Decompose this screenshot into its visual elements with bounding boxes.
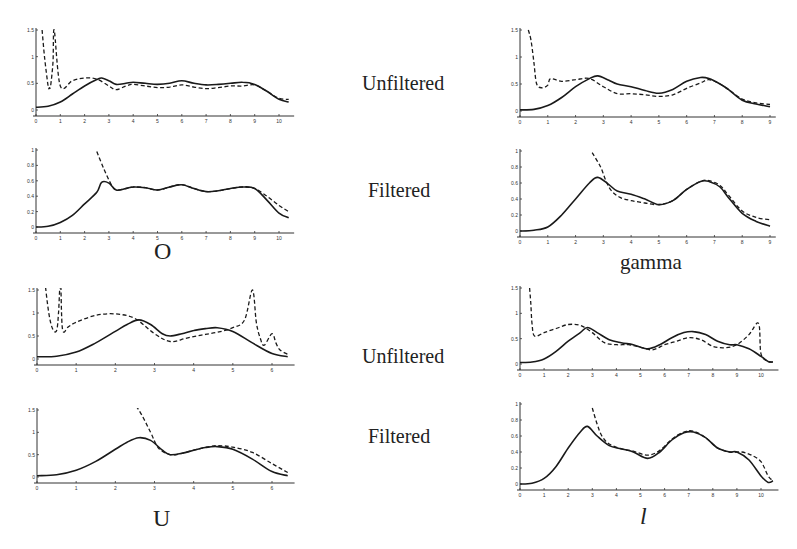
x-tick-label: 5 — [657, 239, 660, 245]
x-tick-label: 6 — [685, 239, 688, 245]
y-tick-label: 0 — [31, 224, 34, 230]
x-tick-label: 8 — [229, 118, 232, 124]
x-tick-label: 10 — [758, 372, 764, 378]
x-tick-label: 6 — [685, 119, 688, 125]
x-tick-label: 4 — [615, 372, 618, 378]
x-tick-label: 10 — [276, 235, 282, 241]
y-tick-label: 0.8 — [511, 417, 518, 423]
y-tick-label: 0.4 — [511, 449, 518, 455]
series-dashed-line — [592, 153, 770, 220]
x-tick-label: 6 — [663, 372, 666, 378]
x-tick-label: 9 — [769, 119, 772, 125]
y-tick-label: 0.6 — [511, 433, 518, 439]
series-solid-line — [36, 78, 289, 107]
chart-l-unfiltered: 01234567891000.511.5 — [511, 285, 778, 378]
x-tick-label: 0 — [35, 235, 38, 241]
x-tick-label: 9 — [736, 372, 739, 378]
chart-O-filtered: 01234567891000.20.40.60.81 — [27, 147, 294, 241]
series-solid-line — [520, 177, 770, 231]
x-tick-label: 4 — [630, 239, 633, 245]
series-solid-line — [37, 438, 288, 476]
x-tick-label: 6 — [663, 492, 666, 498]
x-tick-label: 7 — [687, 372, 690, 378]
y-tick-label: 0.4 — [511, 196, 518, 202]
y-tick-label: 1.5 — [511, 285, 518, 291]
x-tick-label: 2 — [83, 235, 86, 241]
x-tick-label: 3 — [591, 492, 594, 498]
row-label-filtered-2: Filtered — [368, 425, 430, 448]
y-tick-label: 1 — [515, 401, 518, 407]
x-tick-label: 2 — [114, 367, 117, 373]
x-tick-label: 0 — [519, 492, 522, 498]
x-tick-label: 0 — [36, 485, 39, 491]
x-tick-label: 8 — [711, 492, 714, 498]
y-tick-label: 0.2 — [511, 465, 518, 471]
series-dashed-line — [592, 408, 773, 481]
x-tick-label: 1 — [59, 118, 62, 124]
x-tick-label: 2 — [567, 492, 570, 498]
x-tick-label: 4 — [132, 235, 135, 241]
x-tick-label: 9 — [253, 235, 256, 241]
y-tick-label: 1 — [32, 429, 35, 435]
series-dashed-line — [530, 288, 773, 362]
x-tick-label: 7 — [713, 239, 716, 245]
x-tick-label: 1 — [75, 367, 78, 373]
x-tick-label: 2 — [114, 485, 117, 491]
y-tick-label: 1 — [31, 54, 34, 60]
x-tick-label: 10 — [276, 118, 282, 124]
chart-U-filtered: 012345600.511.5 — [28, 397, 295, 491]
x-tick-label: 4 — [132, 118, 135, 124]
panel-label-l: l — [640, 503, 647, 530]
x-tick-label: 0 — [36, 367, 39, 373]
x-tick-label: 3 — [602, 239, 605, 245]
x-tick-label: 7 — [205, 235, 208, 241]
y-tick-label: 0.5 — [28, 333, 35, 339]
y-tick-label: 0 — [515, 108, 518, 114]
y-tick-label: 1 — [32, 310, 35, 316]
x-tick-label: 2 — [567, 372, 570, 378]
y-tick-label: 0 — [515, 361, 518, 367]
x-tick-label: 1 — [546, 239, 549, 245]
y-tick-label: 1.5 — [27, 27, 34, 33]
x-tick-label: 0 — [519, 119, 522, 125]
row-label-filtered-1: Filtered — [368, 179, 430, 202]
x-tick-label: 8 — [711, 372, 714, 378]
y-tick-label: 0.5 — [511, 336, 518, 342]
x-tick-label: 7 — [687, 492, 690, 498]
chart-gamma-unfiltered: 012345678900.511.5 — [511, 27, 776, 125]
y-tick-label: 1.5 — [28, 287, 35, 293]
x-tick-label: 1 — [59, 235, 62, 241]
x-tick-label: 9 — [253, 118, 256, 124]
y-tick-label: 0.2 — [27, 209, 34, 215]
chart-gamma-filtered: 012345678900.20.40.60.81 — [511, 148, 776, 245]
x-tick-label: 6 — [271, 485, 274, 491]
x-tick-label: 0 — [519, 372, 522, 378]
x-tick-label: 1 — [75, 485, 78, 491]
x-tick-label: 6 — [180, 118, 183, 124]
x-tick-label: 7 — [205, 118, 208, 124]
x-tick-label: 3 — [153, 367, 156, 373]
series-dashed-line — [45, 281, 288, 355]
panel-label-gamma: gamma — [620, 250, 682, 275]
x-tick-label: 3 — [602, 119, 605, 125]
y-tick-label: 1.5 — [511, 27, 518, 33]
y-tick-label: 0 — [515, 228, 518, 234]
x-tick-label: 3 — [108, 235, 111, 241]
panel-label-U: U — [153, 505, 170, 532]
y-tick-label: 0.5 — [511, 81, 518, 87]
x-tick-label: 2 — [574, 239, 577, 245]
y-tick-label: 0 — [31, 107, 34, 113]
x-tick-label: 4 — [192, 485, 195, 491]
x-tick-label: 3 — [153, 485, 156, 491]
series-dashed-line — [97, 152, 289, 212]
x-tick-label: 4 — [192, 367, 195, 373]
x-tick-label: 9 — [736, 492, 739, 498]
x-tick-label: 5 — [156, 118, 159, 124]
x-tick-label: 9 — [769, 239, 772, 245]
row-label-unfiltered-2: Unfiltered — [362, 345, 444, 368]
x-tick-label: 7 — [713, 119, 716, 125]
x-tick-label: 5 — [231, 485, 234, 491]
y-tick-label: 0 — [32, 356, 35, 362]
x-tick-label: 2 — [83, 118, 86, 124]
y-tick-label: 0.5 — [28, 452, 35, 458]
